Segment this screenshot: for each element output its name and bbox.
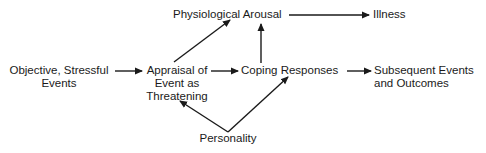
node-subsequent-events: Subsequent Events and Outcomes xyxy=(374,64,474,90)
node-appraisal: Appraisal of Event as Threatening xyxy=(142,64,212,103)
stress-model-diagram: Physiological Arousal Illness Objective,… xyxy=(0,0,486,153)
node-physiological-arousal: Physiological Arousal xyxy=(173,8,282,21)
node-label: Coping Responses xyxy=(241,64,338,77)
edge-personality-to-appraisal xyxy=(180,101,228,132)
node-label-line-2: and Outcomes xyxy=(374,77,474,90)
node-label: Illness xyxy=(373,8,406,21)
node-illness: Illness xyxy=(373,8,406,21)
node-label-line-2: Event as xyxy=(142,77,212,90)
node-label-line-1: Subsequent Events xyxy=(374,64,474,77)
edge-appraisal-to-arousal xyxy=(174,20,230,62)
edge-personality-to-coping xyxy=(228,77,288,132)
node-label-line-2: Events xyxy=(4,77,114,90)
node-label-line-1: Appraisal of xyxy=(142,64,212,77)
node-label-line-1: Objective, Stressful xyxy=(4,64,114,77)
node-label: Personality xyxy=(193,132,263,145)
node-objective-stressful-events: Objective, Stressful Events xyxy=(4,64,114,90)
node-label-line-3: Threatening xyxy=(142,90,212,103)
node-personality: Personality xyxy=(193,132,263,145)
node-label: Physiological Arousal xyxy=(173,8,282,21)
node-coping-responses: Coping Responses xyxy=(241,64,338,77)
